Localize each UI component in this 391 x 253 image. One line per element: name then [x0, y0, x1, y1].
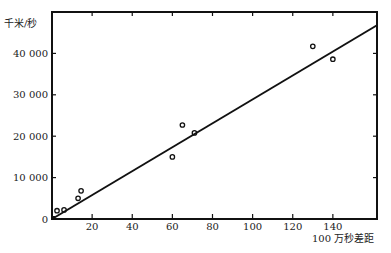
x-tick-label: 100: [243, 221, 262, 232]
fit-line: [52, 25, 377, 219]
origin-marker: [51, 216, 55, 220]
x-tick-label: 140: [323, 221, 342, 232]
data-point: [55, 209, 59, 213]
data-point: [76, 196, 80, 200]
x-tick-label: 120: [283, 221, 302, 232]
data-point: [170, 155, 174, 159]
y-axis: 010 00020 00030 00040 000: [13, 48, 377, 225]
y-tick-label: 30 000: [13, 89, 48, 100]
data-point: [311, 44, 315, 48]
y-tick-label: 10 000: [13, 172, 48, 183]
y-tick-label: 0: [42, 214, 48, 225]
plot-series: [51, 25, 377, 220]
x-tick-label: 60: [166, 221, 179, 232]
y-tick-label: 20 000: [13, 131, 48, 142]
data-point: [331, 57, 335, 61]
data-point: [79, 189, 83, 193]
x-axis-title: 100 万秒差距: [312, 232, 374, 244]
hubble-chart: 010 00020 00030 00040 000 20406080100120…: [0, 0, 391, 253]
data-point: [180, 123, 184, 127]
y-tick-label: 40 000: [13, 48, 48, 59]
x-tick-label: 80: [206, 221, 219, 232]
y-axis-title: 千米/秒: [4, 17, 37, 29]
plot-border: [52, 12, 377, 219]
x-tick-label: 40: [126, 221, 139, 232]
x-tick-label: 20: [86, 221, 99, 232]
plot-frame: [52, 12, 377, 219]
